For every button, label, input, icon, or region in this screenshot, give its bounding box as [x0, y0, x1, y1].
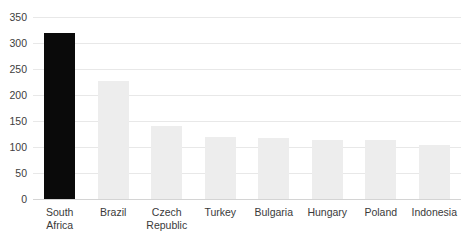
y-axis-tick-label: 200 [9, 90, 27, 101]
x-axis-category-label: Brazil [87, 206, 141, 219]
y-axis-tick-label: 150 [9, 116, 27, 127]
x-axis-category-label: Bulgaria [247, 206, 301, 219]
y-axis: 050100150200250300350 [0, 0, 33, 245]
x-axis-category-label: Hungary [301, 206, 355, 219]
y-axis-tick-label: 0 [21, 194, 27, 205]
bar [98, 81, 129, 199]
y-axis-tick-label: 50 [15, 168, 27, 179]
x-axis-category-label: Turkey [194, 206, 248, 219]
y-axis-tick-label: 100 [9, 142, 27, 153]
bar [419, 145, 450, 199]
axis-baseline [33, 199, 461, 200]
bars-layer [33, 10, 461, 199]
bar [205, 137, 236, 199]
y-axis-tick-label: 300 [9, 38, 27, 49]
bar [151, 126, 182, 199]
bar [44, 33, 75, 199]
bar-chart: 050100150200250300350 South AfricaBrazil… [0, 0, 465, 245]
bar [258, 138, 289, 199]
y-axis-tick-label: 350 [9, 12, 27, 23]
y-axis-tick-label: 250 [9, 64, 27, 75]
x-axis: South AfricaBrazilCzech RepublicTurkeyBu… [33, 202, 461, 245]
x-axis-category-label: South Africa [33, 206, 87, 232]
x-axis-category-label: Indonesia [408, 206, 462, 219]
bar [312, 140, 343, 199]
bar [365, 140, 396, 199]
x-axis-category-label: Poland [354, 206, 408, 219]
x-axis-category-label: Czech Republic [140, 206, 194, 232]
